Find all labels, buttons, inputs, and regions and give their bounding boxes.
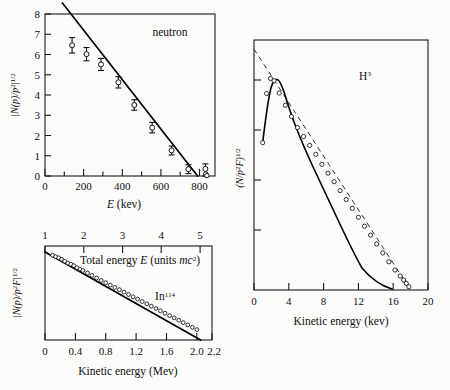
data-point — [205, 173, 209, 177]
h3-xtick-20: 20 — [423, 295, 435, 307]
in114-bottom-axis-ticks — [45, 333, 212, 340]
neutron-xtick-600: 600 — [153, 180, 170, 192]
h3-x-axis-title: Kinetic energy (kev) — [294, 315, 389, 328]
neutron-plot-frame — [45, 14, 215, 176]
neutron-x-axis: 0 200 400 600 800 — [42, 169, 208, 192]
in114-top-tick-2: 2 — [81, 229, 87, 241]
in114-xtick-0: 0 — [42, 345, 48, 357]
neutron-ylabel-sup2: 1/2 — [9, 73, 17, 82]
neutron-plot-svg: 0 1 2 3 4 5 6 7 8 |N(p)/p2|1/2 — [0, 0, 232, 220]
h3-ylabel-sup2: 1/2 — [234, 148, 242, 157]
neutron-ytick-6: 6 — [35, 49, 41, 61]
h3-xtick-16: 16 — [388, 295, 400, 307]
svg-text:(N/p2F)1/2: (N/p2F)1/2 — [234, 148, 247, 188]
chart-panel-h3: (N/p2F)1/2 0 4 8 12 16 20 Kinetic energ — [232, 8, 450, 348]
h3-dashed-extrapolation — [254, 49, 411, 290]
h3-xtick-8: 8 — [321, 295, 327, 307]
in114-top-tick-3: 3 — [120, 229, 126, 241]
in114-top-tick-5: 5 — [197, 229, 203, 241]
in114-xtick-22: 2.2 — [207, 345, 221, 357]
neutron-y-axis-title: |N(p)/p2|1/2 — [9, 73, 22, 117]
h3-xtick-4: 4 — [286, 295, 292, 307]
neutron-ylabel-base: |N(p)/p — [9, 88, 21, 117]
neutron-ytick-0: 0 — [35, 170, 41, 182]
beta-decay-kurie-figure: 0 1 2 3 4 5 6 7 8 |N(p)/p2|1/2 — [0, 0, 450, 390]
neutron-ytick-1: 1 — [35, 150, 41, 162]
neutron-ytick-4: 4 — [35, 89, 41, 101]
neutron-ytick-7: 7 — [35, 28, 41, 40]
in114-title-base: In — [155, 290, 165, 302]
data-point — [69, 38, 75, 53]
h3-plot-svg: (N/p2F)1/2 0 4 8 12 16 20 Kinetic energ — [232, 8, 450, 348]
in114-top-axis-labels: 1 2 3 4 5 — [42, 229, 203, 241]
neutron-ytick-5: 5 — [35, 69, 41, 81]
h3-x-axis-labels: 0 4 8 12 16 20 — [251, 295, 434, 307]
neutron-xtick-0: 0 — [42, 180, 48, 192]
data-point — [149, 122, 155, 132]
in114-toplabel-f: ) — [196, 254, 200, 267]
h3-solid-curve — [263, 79, 392, 289]
neutron-ytick-8: 8 — [35, 8, 41, 20]
in114-xtick-12: 1.2 — [129, 345, 143, 357]
in114-plot-svg: 1 2 3 4 5 Total energy E (units mc2) |N(… — [0, 224, 232, 390]
h3-y-axis-title: (N/p2F)1/2 — [234, 148, 247, 188]
in114-toplabel-c: (units — [147, 254, 179, 267]
data-point — [84, 48, 90, 61]
chart-panel-neutron: 0 1 2 3 4 5 6 7 8 |N(p)/p2|1/2 — [0, 0, 232, 220]
h3-title-sup: 3 — [367, 70, 371, 78]
h3-plot-frame — [254, 40, 428, 290]
neutron-xtick-400: 400 — [114, 180, 131, 192]
h3-title-base: H — [359, 70, 367, 82]
neutron-ytick-2: 2 — [35, 130, 41, 142]
data-point — [98, 58, 104, 70]
h3-ylabel-base: (N/p — [234, 170, 246, 188]
in114-ylabel-base: |N(p)/p — [11, 289, 23, 318]
h3-panel-title: H3 — [359, 70, 371, 82]
in114-top-tick-4: 4 — [158, 229, 164, 241]
in114-toplabel-b: E — [139, 254, 147, 266]
in114-xtick-16: 1.6 — [160, 345, 174, 357]
neutron-y-axis: 0 1 2 3 4 5 6 7 8 — [35, 8, 52, 182]
in114-x-axis-title: Kinetic energy (Mev) — [78, 365, 178, 378]
in114-toplabel-a: Total energy — [80, 254, 140, 267]
in114-panel-title: In114 — [155, 290, 175, 302]
neutron-xtick-800: 800 — [191, 180, 208, 192]
in114-xtick-08: 0.8 — [99, 345, 113, 357]
neutron-xlabel-unit: (kev) — [114, 198, 141, 211]
neutron-x-axis-title: E (kev) — [106, 198, 141, 211]
in114-bottom-axis-labels: 0 0.4 0.8 1.2 1.6 2.0 2.2 — [42, 345, 221, 357]
in114-xtick-04: 0.4 — [69, 345, 83, 357]
h3-data-points — [261, 76, 411, 288]
in114-ylabel-sup2: 1/2 — [11, 267, 19, 276]
in114-y-axis-title: |N(p)/p2F|1/2 — [11, 267, 24, 318]
chart-panel-in114: 1 2 3 4 5 Total energy E (units mc2) |N(… — [0, 224, 232, 390]
svg-text:|N(p)/p2|1/2: |N(p)/p2|1/2 — [9, 73, 22, 117]
data-point — [169, 146, 175, 155]
in114-top-axis-title: Total energy E (units mc2) — [80, 254, 200, 267]
neutron-xtick-200: 200 — [75, 180, 92, 192]
in114-top-tick-1: 1 — [42, 229, 48, 241]
h3-y-axis-ticks — [254, 80, 261, 230]
svg-text:|N(p)/p2F|1/2: |N(p)/p2F|1/2 — [11, 267, 24, 318]
h3-xtick-0: 0 — [251, 295, 257, 307]
h3-xtick-12: 12 — [353, 295, 364, 307]
in114-title-sup: 114 — [165, 291, 176, 299]
in114-top-axis-ticks — [45, 246, 200, 253]
in114-toplabel-d: mc — [179, 254, 192, 266]
neutron-data-points — [69, 38, 209, 178]
h3-x-axis-ticks — [254, 283, 428, 290]
neutron-xlabel-symbol: E — [106, 198, 114, 210]
in114-xtick-20: 2.0 — [190, 345, 204, 357]
neutron-ytick-3: 3 — [35, 109, 41, 121]
neutron-panel-title: neutron — [152, 26, 187, 38]
h3-ylabel-mid: F) — [234, 156, 246, 167]
in114-ylabel-mid: F| — [11, 277, 22, 287]
